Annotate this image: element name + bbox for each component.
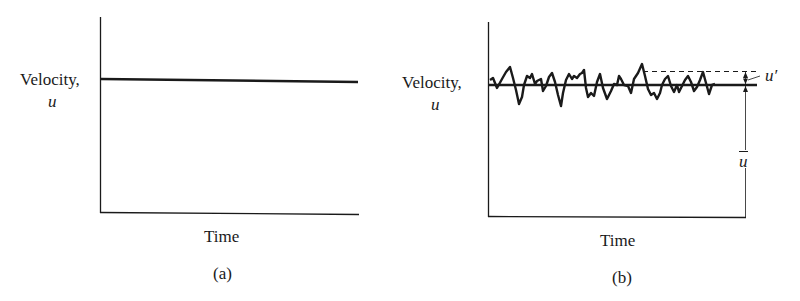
panel-b-ylabel: Velocity, (402, 74, 462, 91)
panel-a-caption: (a) (213, 265, 232, 282)
figure-canvas (0, 0, 800, 301)
panel-b-turbulent-velocity-trace (490, 64, 715, 106)
panel-b-x-axis (488, 217, 746, 218)
panel-a-steady-velocity-line (101, 79, 358, 82)
panel-b-ylabel-symbol: u (431, 96, 440, 113)
arrow-up-u-prime-icon (743, 72, 748, 78)
panel-a-ylabel: Velocity, (20, 71, 80, 88)
panel-b-caption: (b) (612, 269, 632, 286)
panel-b-xlabel: Time (600, 232, 635, 249)
panel-b-u-bar-annotation: u (739, 151, 748, 170)
arrow-up-u-bar-icon (743, 86, 748, 92)
panel-a-xlabel: Time (204, 228, 239, 245)
panel-a-ylabel-symbol: u (48, 93, 57, 110)
panel-a-axes (100, 17, 359, 215)
panel-b-arrowheads (743, 72, 748, 92)
panel-b-axes (488, 22, 760, 218)
panel-a-x-axis (100, 213, 359, 215)
panel-b-u-prime-leader (748, 76, 760, 80)
arrow-down-u-prime-icon (743, 79, 748, 85)
panel-b-u-prime-annotation: u′ (765, 67, 777, 84)
